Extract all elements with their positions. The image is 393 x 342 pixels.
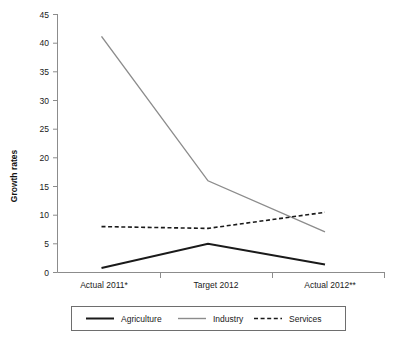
x-category-label-1: Target 2012: [194, 280, 239, 290]
chart-background: [0, 0, 393, 342]
legend-label-agriculture: Agriculture: [121, 314, 162, 324]
y-tick-label-35: 35: [40, 67, 50, 77]
y-tick-label-25: 25: [40, 124, 50, 134]
y-tick-label-40: 40: [40, 38, 50, 48]
y-tick-label-30: 30: [40, 96, 50, 106]
y-axis-title: Growth rates: [9, 150, 19, 203]
chart-canvas: Growth rates 0 5 10 15 20 25 30 35 40: [0, 0, 393, 342]
y-tick-label-20: 20: [40, 153, 50, 163]
x-category-label-2: Actual 2012**: [304, 280, 356, 290]
y-tick-label-0: 0: [44, 268, 49, 278]
y-tick-label-10: 10: [40, 210, 50, 220]
legend-label-industry: Industry: [213, 314, 244, 324]
y-tick-label-5: 5: [44, 239, 49, 249]
growth-rates-line-chart: Growth rates 0 5 10 15 20 25 30 35 40: [0, 0, 393, 342]
chart-legend: Agriculture Industry Services: [72, 307, 346, 331]
x-category-label-0: Actual 2011*: [80, 280, 128, 290]
y-tick-label-45: 45: [40, 10, 50, 20]
legend-label-services: Services: [289, 314, 322, 324]
y-tick-label-15: 15: [40, 182, 50, 192]
